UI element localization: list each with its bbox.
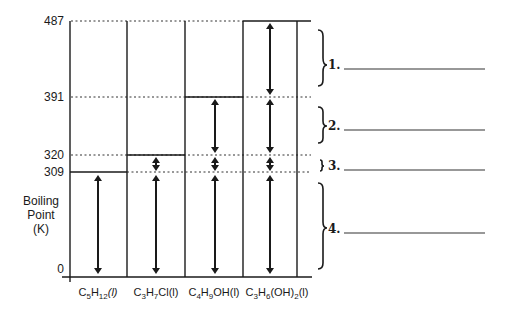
brace-icon-4 [318, 183, 327, 269]
category-label-c3h7cl: C3H7Cl(l) [134, 286, 179, 301]
brace-icon-3 [320, 160, 324, 171]
y-axis-label-line2: Point [27, 208, 55, 222]
y-tick-309: 309 [44, 165, 64, 179]
category-label-c3h6oh2: C3H6(OH)2(l) [246, 286, 309, 301]
y-axis-label-line3: (K) [33, 222, 49, 236]
axes [62, 21, 312, 282]
braces [318, 30, 327, 269]
answer-label-4: 4. [328, 222, 341, 236]
y-tick-0: 0 [57, 262, 64, 276]
brace-icon-1 [318, 30, 327, 86]
columns [70, 21, 311, 277]
y-axis-label-line1: Boiling [23, 194, 59, 208]
brace-icon-2 [318, 107, 327, 143]
category-label-c4h9oh: C4H9OH(l) [188, 286, 239, 301]
category-label-c5h12: C5H12(l) [78, 286, 117, 301]
answer-label-2: 2. [328, 119, 341, 133]
y-tick-487: 487 [44, 14, 64, 28]
answer-label-1: 1. [328, 58, 341, 72]
boiling-point-diagram: 487 391 320 309 0 Boiling Point (K) C5H1… [0, 0, 507, 312]
answer-label-3: 3. [328, 159, 341, 173]
y-tick-320: 320 [44, 148, 64, 162]
y-tick-391: 391 [44, 90, 64, 104]
arrows [98, 26, 270, 271]
